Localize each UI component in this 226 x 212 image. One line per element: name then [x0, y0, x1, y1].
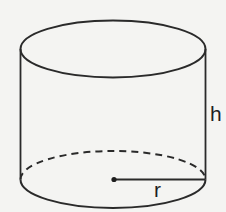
radius-label: r	[154, 178, 161, 201]
cylinder-figure: h r	[0, 0, 226, 212]
center-point	[111, 177, 116, 182]
bottom-face-hidden-arc	[21, 151, 206, 180]
cylinder-diagram: h r	[0, 0, 226, 212]
height-label: h	[210, 102, 222, 125]
top-face-ellipse	[21, 21, 206, 78]
bottom-face-visible-arc	[21, 180, 206, 209]
